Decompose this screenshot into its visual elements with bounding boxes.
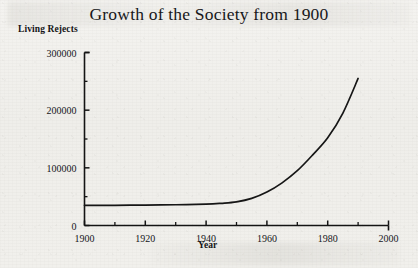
data-line-living-rejects (85, 78, 359, 205)
chart-page: Growth of the Society from 1900 Living R… (0, 0, 418, 268)
x-tick-label: 1900 (75, 233, 95, 244)
y-tick-label: 200000 (10, 105, 77, 116)
x-tick-label: 1980 (318, 233, 338, 244)
x-tick-label: 1960 (257, 233, 277, 244)
tick-marks (85, 53, 389, 231)
axis-lines (85, 53, 389, 226)
y-tick-label: 300000 (10, 47, 77, 58)
y-tick-label: 100000 (10, 162, 77, 173)
y-tick-label: 0 (10, 220, 77, 231)
x-tick-label: 2000 (379, 233, 399, 244)
x-tick-label: 1940 (196, 233, 216, 244)
x-tick-label: 1920 (135, 233, 155, 244)
